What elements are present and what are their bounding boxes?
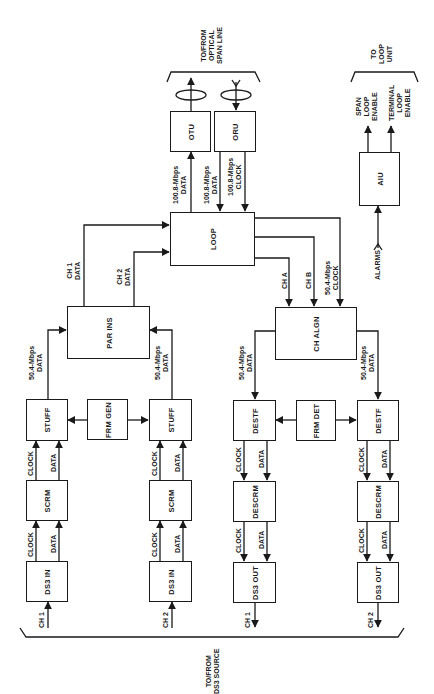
oru-data-rate-label: 100.8-Mbps DATA [203, 166, 219, 204]
descrm-1-data-label: DATA [258, 531, 266, 549]
descrm-2-label: DESCRM [374, 485, 383, 519]
ds3-source-label: TO/FROM DS3 SOURCE [205, 648, 221, 694]
descrm-2-clock-label: CLOCK [358, 528, 366, 553]
loop-unit-label: TO LOOP UNIT [370, 44, 394, 64]
frm-gen-label: FRM GEN [103, 402, 112, 438]
scrm-1-label: SCRM [43, 489, 52, 512]
ds3in-2-data-label: DATA [174, 535, 182, 553]
stuff-1-data-rate-label: 50.4-Mbps DATA [28, 346, 44, 380]
ch2-in-label: CH 2 [162, 612, 170, 628]
destf-1-data-label: DATA [258, 450, 266, 468]
ds3-in-1-block: DS3 IN [26, 561, 68, 602]
ch2-out-label: CH 2 [367, 612, 375, 628]
oru-label: ORU [231, 123, 240, 140]
terminal-loop-enable-label: TERMINAL LOOP ENABLE [388, 85, 412, 121]
frm-det-block: FRM DET [296, 400, 336, 441]
stuff-2-label: STUFF [166, 407, 175, 432]
scrm-2-block: SCRM [149, 480, 192, 521]
ds3in-2-clock-label: CLOCK [151, 532, 159, 557]
ds3-out-2-label: DS3 OUT [374, 566, 383, 600]
loop-block: LOOP [170, 212, 255, 266]
descrm-2-data-label: DATA [381, 531, 389, 549]
stuff-1-label: STUFF [43, 407, 52, 432]
destf-1-clock-label: CLOCK [235, 447, 243, 472]
destf-1-label: DESTF [250, 408, 259, 434]
scrm-1-clock-label: CLOCK [27, 451, 35, 476]
ds3-out-2-block: DS3 OUT [357, 562, 399, 603]
destf-2-data-label: DATA [381, 450, 389, 468]
algn-clock-rate-label: 50.4-Mbps CLOCK [324, 261, 340, 295]
ch2-data-label: CH 2 DATA [116, 268, 132, 286]
descrm-1-clock-label: CLOCK [235, 528, 243, 553]
ds3-out-1-label: DS3 OUT [250, 566, 259, 600]
aiu-label: AIU [375, 172, 384, 186]
scrm-1-block: SCRM [26, 480, 68, 521]
ds3-in-2-block: DS3 IN [149, 561, 192, 602]
descrm-1-label: DESCRM [250, 485, 259, 519]
ch-a-label: CH A [281, 272, 289, 289]
ds3-optical-terminal-block-diagram: OTU ORU LOOP AIU PAR INS CH ALGN STUFF F… [0, 0, 434, 694]
descrm-1-block: DESCRM [233, 481, 276, 522]
frm-det-label: FRM DET [312, 403, 321, 438]
scrm-1-data-label: DATA [50, 454, 58, 472]
ch1-data-label: CH 1 DATA [66, 262, 82, 280]
ds3-in-1-label: DS3 IN [43, 569, 52, 594]
par-ins-label: PAR INS [104, 317, 113, 348]
ch1-in-label: CH 1 [38, 612, 46, 628]
aiu-block: AIU [359, 152, 400, 206]
oru-clock-rate-label: 100.8-Mbps CLOCK [227, 158, 243, 196]
scrm-2-label: SCRM [166, 489, 175, 512]
destf-2-clock-label: CLOCK [358, 447, 366, 472]
otu-label: OTU [186, 123, 195, 139]
descrm-2-block: DESCRM [357, 481, 399, 522]
destf-1-block: DESTF [233, 400, 276, 441]
par-ins-block: PAR INS [67, 306, 150, 359]
destf-2-label: DESTF [374, 408, 383, 434]
ch-algn-label: CH ALGN [312, 316, 321, 351]
ds3in-1-data-label: DATA [50, 535, 58, 553]
stuff-1-block: STUFF [26, 399, 68, 441]
ds3-in-2-label: DS3 IN [166, 569, 175, 594]
otu-block: OTU [170, 111, 211, 152]
ch1-out-label: CH 1 [244, 612, 252, 628]
stuff-2-data-rate-label: 50.4-Mbps DATA [154, 346, 170, 380]
stuff-2-block: STUFF [149, 399, 192, 441]
loop-label: LOOP [208, 228, 217, 250]
oru-block: ORU [214, 111, 256, 152]
ds3in-1-clock-label: CLOCK [27, 532, 35, 557]
frm-gen-block: FRM GEN [87, 399, 128, 440]
scrm-2-data-label: DATA [174, 454, 182, 472]
ch-b-label: CH B [305, 272, 313, 289]
destf-1-data-rate-label: 50.4-Mbps DATA [238, 346, 254, 380]
otu-data-rate-label: 100.8-Mbps DATA [172, 166, 188, 204]
destf-2-data-rate-label: 50.4-Mbps DATA [360, 346, 376, 380]
destf-2-block: DESTF [357, 400, 399, 441]
span-loop-enable-label: SPAN LOOP ENABLE [355, 92, 379, 121]
alarms-label: ALARMS [374, 250, 382, 280]
ds3-out-1-block: DS3 OUT [233, 562, 276, 603]
optical-span-line-label: TO/FROM OPTICAL SPAN LINE [200, 27, 224, 64]
scrm-2-clock-label: CLOCK [151, 451, 159, 476]
ch-algn-block: CH ALGN [275, 307, 357, 360]
